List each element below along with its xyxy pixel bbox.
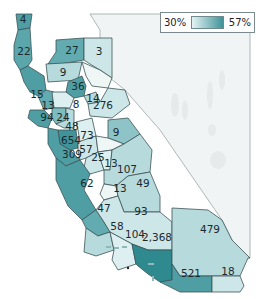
california-choropleth-map: 4 22 27 3 9 15 13 36 8 14 276 94 24 48 6…	[0, 0, 264, 299]
label-san-luis-obispo: 47	[97, 202, 110, 214]
label-marin: 94	[40, 111, 54, 123]
label-los-angeles: 2,368	[142, 231, 172, 243]
legend-gradient-bar	[191, 16, 224, 29]
color-scale-legend: 30% 57%	[160, 12, 255, 33]
label-merced: 25	[91, 151, 104, 163]
label-tulare: 49	[136, 177, 149, 189]
label-humboldt: 22	[17, 45, 30, 57]
label-tehama: 9	[60, 66, 67, 78]
label-san-diego: 521	[181, 267, 201, 279]
label-san-joaquin: 73	[80, 129, 93, 141]
county-imperial[interactable]	[212, 276, 244, 292]
legend-max-label: 57%	[229, 17, 251, 28]
label-del-norte: 4	[20, 13, 27, 25]
label-imperial: 18	[221, 265, 234, 277]
label-shasta: 27	[65, 44, 78, 56]
label-monterey: 62	[80, 177, 93, 189]
label-mariposa: 13	[104, 157, 117, 169]
label-yolo: 8	[73, 98, 80, 110]
label-mono: 9	[113, 126, 120, 138]
label-lassen: 3	[96, 45, 103, 57]
label-sonoma: 13	[41, 99, 54, 111]
label-kings: 13	[113, 182, 126, 194]
label-san-francisco: 654	[61, 134, 81, 146]
legend-min-label: 30%	[164, 17, 186, 28]
label-san-bernardino: 479	[200, 223, 220, 235]
label-santa-barbara: 58	[110, 220, 123, 232]
label-placer: 276	[93, 99, 113, 111]
label-sacramento: 36	[71, 80, 85, 92]
label-kern: 93	[134, 205, 147, 217]
label-fresno: 107	[117, 163, 137, 175]
label-solano: 48	[65, 120, 78, 132]
